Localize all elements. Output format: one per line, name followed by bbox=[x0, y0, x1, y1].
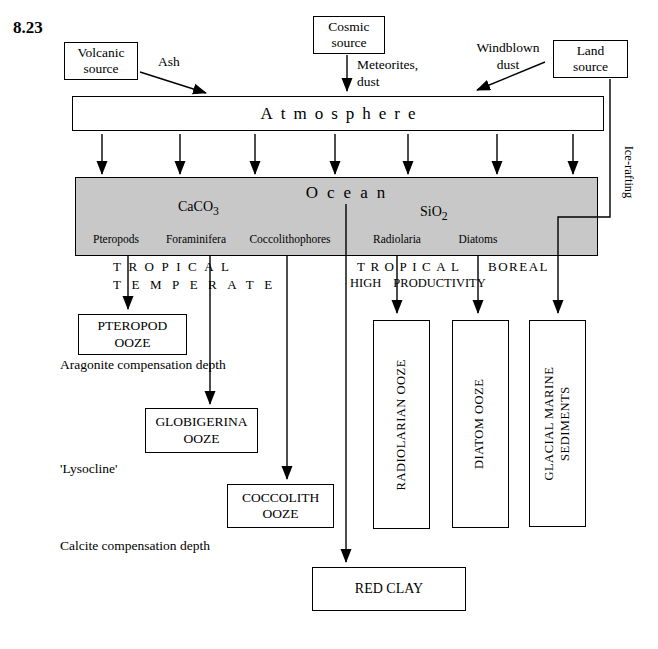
tropical-right-label: TROPICAL bbox=[357, 259, 465, 275]
radiolaria-label: Radiolaria bbox=[373, 233, 421, 245]
pteropods-label: Pteropods bbox=[93, 233, 139, 245]
high-productivity-label: HIGH PRODUCTIVITY bbox=[350, 276, 486, 291]
ash-arrow bbox=[140, 72, 206, 93]
foraminifera-label: Foraminifera bbox=[166, 233, 226, 245]
lysocline-label: 'Lysocline' bbox=[60, 461, 117, 477]
diatoms-label: Diatoms bbox=[459, 233, 498, 245]
volcanic-source-line1: Volcanic bbox=[78, 45, 125, 61]
meteorites-label: Meteorites, dust bbox=[357, 57, 418, 91]
temperate-label: TEMPERATE bbox=[113, 277, 283, 293]
ice-rafting-arrow bbox=[558, 79, 610, 313]
sediment-sources-diagram: 8.23 Volcanic source Cosmic source Land … bbox=[0, 0, 658, 649]
ocean-label: Ocean bbox=[270, 183, 430, 203]
calcite-compensation-depth-label: Calcite compensation depth bbox=[60, 538, 210, 554]
ice-rafting-label: Ice-rafting bbox=[621, 146, 636, 199]
cosmic-source-line2: source bbox=[331, 35, 366, 51]
globigerina-ooze-box: GLOBIGERINA OOZE bbox=[145, 408, 258, 453]
coccolith-ooze-box: COCCOLITH OOZE bbox=[227, 484, 334, 528]
cosmic-source-box: Cosmic source bbox=[313, 16, 385, 54]
glacial-marine-sediments-box: GLACIAL MARINE SEDIMENTS bbox=[529, 320, 586, 527]
land-source-line1: Land bbox=[577, 43, 605, 59]
boreal-label: BOREAL bbox=[488, 259, 549, 275]
land-source-line2: source bbox=[573, 59, 608, 75]
diatom-ooze-box: DIATOM OOZE bbox=[452, 320, 509, 528]
glacial-marine-sediments-label: GLACIAL MARINE SEDIMENTS bbox=[542, 367, 573, 481]
volcanic-source-line2: source bbox=[83, 61, 118, 77]
figure-number: 8.23 bbox=[13, 18, 43, 38]
pteropod-ooze-box: PTEROPOD OOZE bbox=[78, 314, 187, 355]
cosmic-source-line1: Cosmic bbox=[328, 19, 369, 35]
sio2-label: SiO2 bbox=[420, 204, 448, 223]
aragonite-compensation-depth-label: Aragonite compensation depth bbox=[60, 357, 226, 373]
land-source-box: Land source bbox=[553, 40, 628, 78]
ash-label: Ash bbox=[158, 54, 180, 71]
windblown-dust-label: Windblown dust bbox=[470, 40, 546, 74]
coccolithophores-label: Coccolithophores bbox=[249, 233, 330, 245]
red-clay-box: RED CLAY bbox=[312, 567, 466, 611]
radiolarian-ooze-box: RADIOLARIAN OOZE bbox=[373, 320, 430, 529]
caco3-label: CaCO3 bbox=[178, 199, 219, 218]
volcanic-source-box: Volcanic source bbox=[64, 42, 138, 80]
tropical-left-label: TROPICAL bbox=[113, 259, 237, 275]
